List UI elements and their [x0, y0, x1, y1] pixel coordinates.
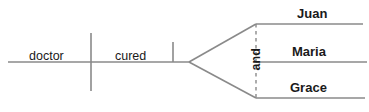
subject-label: doctor — [29, 50, 64, 63]
sentence-diagram: doctor cured and Juan Maria Grace — [0, 0, 369, 112]
fork-upper-branch — [189, 24, 256, 62]
object-label-grace: Grace — [290, 81, 327, 94]
verb-label: cured — [115, 50, 146, 63]
object-label-juan: Juan — [297, 7, 327, 20]
fork-lower-branch — [189, 62, 256, 98]
object-label-maria: Maria — [292, 45, 326, 58]
conjunction-label: and — [250, 39, 263, 79]
